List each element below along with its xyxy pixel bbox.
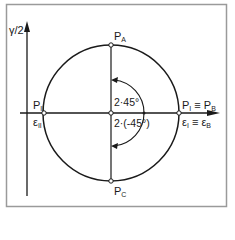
- point-c-marker: [109, 179, 113, 183]
- point-ii-label: PII: [33, 100, 44, 114]
- arrow-lower-icon: [111, 143, 118, 149]
- strain-ii-label: εII: [33, 117, 42, 131]
- point-a-label: PA: [114, 31, 126, 45]
- arc-intersection-marker: [143, 112, 146, 115]
- y-axis-arrow-icon: [24, 21, 30, 32]
- strain-i-label: εI ≡ εB: [182, 117, 211, 131]
- angle-upper-label: 2·45°: [114, 97, 139, 108]
- point-c-label: PC: [114, 186, 126, 200]
- center-marker: [109, 111, 113, 115]
- arrow-upper-icon: [111, 77, 118, 83]
- point-i-label: PI ≡ PB: [182, 100, 216, 114]
- point-i-marker: [177, 111, 181, 115]
- y-axis-label: γ/2: [9, 25, 24, 36]
- point-a-marker: [109, 43, 113, 47]
- angle-lower-label: 2·(-45°): [114, 118, 150, 129]
